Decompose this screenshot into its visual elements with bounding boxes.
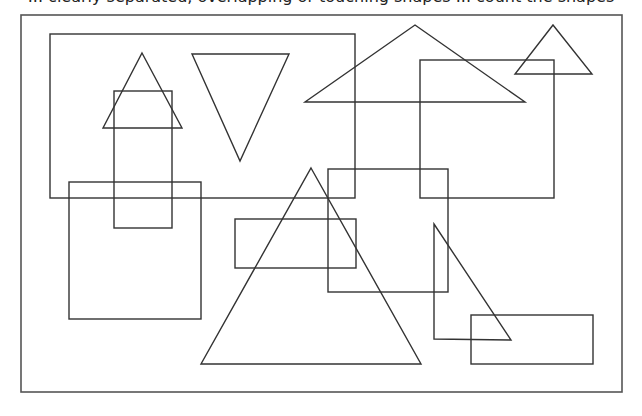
triangle-wide [305,25,525,102]
triangles-group [103,25,592,364]
triangle-inverted [192,54,289,161]
rect-small-horizontal [235,219,356,268]
shapes-canvas [0,0,642,416]
rectangles-group [50,34,593,364]
rect-square-left [69,182,201,319]
outer-frame [21,15,622,392]
rect-large-top-left [50,34,355,198]
rect-right-upper [420,60,554,198]
triangle-right-angle [434,224,511,340]
rect-tall-narrow [114,91,172,228]
